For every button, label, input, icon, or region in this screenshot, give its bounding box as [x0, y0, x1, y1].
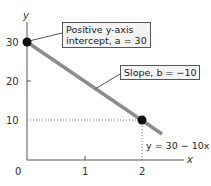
slope-text: Slope, b = −10 [124, 67, 196, 78]
y-tick-label-30: 30 [6, 37, 19, 48]
x-tick-label-2: 2 [139, 166, 145, 177]
intercept-line-1: Positive y-axis [66, 24, 147, 35]
y-tick-label-20: 20 [6, 76, 19, 87]
y-tick-label-10: 10 [6, 115, 19, 126]
x-tick-label-1: 1 [82, 166, 88, 177]
intercept-line-2: intercept, a = 30 [66, 35, 147, 46]
data-point-2-10 [138, 116, 147, 125]
slope-leader [95, 74, 120, 89]
y-axis-label: y [22, 10, 30, 21]
origin-label: 0 [15, 166, 21, 177]
slope-annotation: Slope, b = −10 [120, 65, 200, 80]
intercept-leader [29, 33, 62, 41]
intercept-point [23, 38, 32, 47]
intercept-annotation: Positive y-axis intercept, a = 30 [62, 22, 151, 48]
equation-label: y = 30 − 10x [146, 140, 209, 151]
x-axis-label: x [186, 154, 193, 165]
